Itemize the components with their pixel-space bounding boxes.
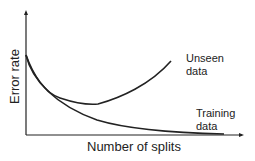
x-axis-label: Number of splits <box>87 141 181 153</box>
y-axis-label: Error rate <box>9 49 21 104</box>
y-axis-arrow-icon <box>24 10 28 15</box>
training-label-line1: Training <box>196 107 235 119</box>
chart-plot <box>0 0 255 161</box>
unseen-label-line1: Unseen <box>186 52 224 64</box>
unseen-data-curve <box>26 55 171 104</box>
x-axis-arrow-icon <box>239 133 244 137</box>
training-label-line2: data <box>196 120 217 132</box>
unseen-label-line2: data <box>186 65 207 77</box>
